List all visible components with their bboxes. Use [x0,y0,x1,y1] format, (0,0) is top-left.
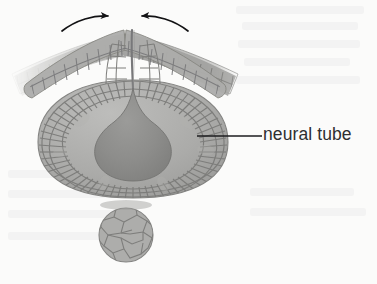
neural-tube-label: neural tube [263,126,352,144]
neural-tube-figure: neural tube [0,0,377,284]
notochord-tube-junction [100,200,152,210]
